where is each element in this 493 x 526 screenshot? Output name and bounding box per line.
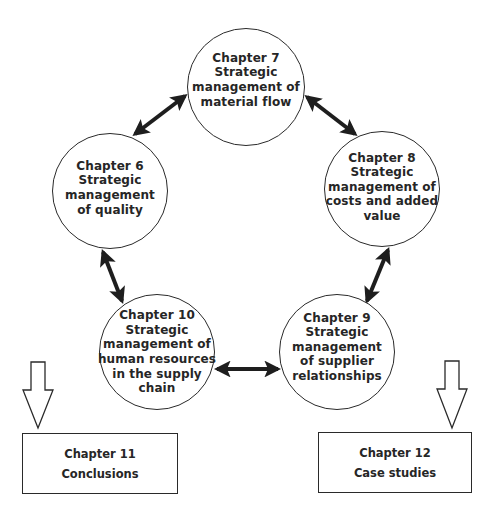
hollow-down-arrow-icon bbox=[23, 362, 53, 428]
chapter-7-node: Chapter 7 Strategic management of materi… bbox=[187, 28, 305, 146]
node-label: management of bbox=[192, 80, 300, 95]
node-label: management bbox=[65, 188, 155, 203]
node-label: Strategic bbox=[126, 323, 189, 338]
node-label: costs and added bbox=[326, 194, 438, 209]
chapter-8-node: Chapter 8 Strategic management of costs … bbox=[324, 131, 440, 247]
node-title: Chapter 9 bbox=[303, 311, 370, 326]
chapter-11-box: Chapter 11 Conclusions bbox=[22, 433, 178, 494]
node-label: management of bbox=[103, 337, 211, 352]
box-title: Chapter 11 bbox=[64, 444, 136, 464]
box-subtitle: Case studies bbox=[354, 463, 436, 483]
node-label: Strategic bbox=[215, 65, 278, 80]
node-label: of quality bbox=[77, 203, 143, 218]
node-label: in the supply bbox=[112, 367, 202, 382]
node-label: of supplier bbox=[300, 354, 374, 369]
node-label: relationships bbox=[292, 369, 382, 384]
node-label: management of bbox=[328, 180, 436, 195]
chapter-6-node: Chapter 6 Strategic management of qualit… bbox=[52, 133, 168, 249]
hollow-down-arrow-icon bbox=[437, 361, 467, 428]
node-label: chain bbox=[139, 381, 176, 396]
node-title: Chapter 10 bbox=[119, 308, 195, 323]
node-label: management bbox=[292, 340, 382, 355]
node-title: Chapter 7 bbox=[212, 51, 279, 66]
node-label: human resources bbox=[98, 352, 216, 367]
node-label: material flow bbox=[201, 95, 292, 110]
node-label: value bbox=[363, 209, 400, 224]
box-subtitle: Conclusions bbox=[61, 464, 138, 484]
node-label: Strategic bbox=[306, 325, 369, 340]
chapter-9-node: Chapter 9 Strategic management of suppli… bbox=[279, 294, 395, 410]
node-title: Chapter 8 bbox=[348, 151, 415, 166]
double-arrow-ch7-ch8 bbox=[307, 97, 355, 134]
double-arrow-ch8-ch9 bbox=[367, 250, 388, 301]
node-title: Chapter 6 bbox=[76, 159, 143, 174]
chapter-12-box: Chapter 12 Case studies bbox=[318, 432, 472, 493]
double-arrow-ch6-ch10 bbox=[103, 252, 122, 301]
double-arrow-ch7-ch6 bbox=[135, 96, 185, 134]
node-label: Strategic bbox=[351, 165, 414, 180]
node-label: Strategic bbox=[79, 173, 142, 188]
box-title: Chapter 12 bbox=[359, 443, 431, 463]
chapter-10-node: Chapter 10 Strategic management of human… bbox=[99, 294, 215, 410]
